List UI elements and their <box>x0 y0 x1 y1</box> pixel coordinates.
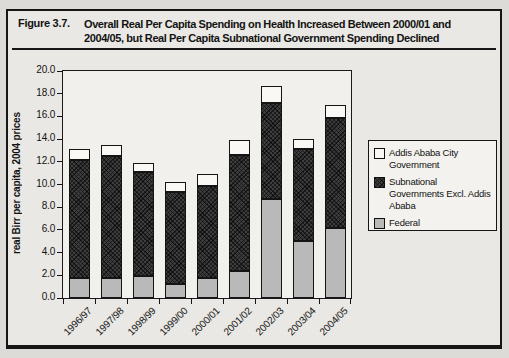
title-divider-rule <box>12 48 496 50</box>
bar-segment-plain <box>229 140 250 155</box>
y-tick-label: 18.0 <box>36 87 55 98</box>
bar-segment-plain <box>197 174 218 185</box>
y-tick-mark <box>57 116 63 117</box>
y-tick-mark <box>57 139 63 140</box>
bar-segment-dots <box>325 228 346 298</box>
y-tick-mark <box>57 207 63 208</box>
bar-segment-cross <box>229 155 250 271</box>
legend-label: Addis Ababa City Government <box>389 147 493 171</box>
y-tick-label: 16.0 <box>36 109 55 120</box>
y-tick-mark <box>57 275 63 276</box>
chart-legend: Addis Ababa City Government Subnational … <box>368 140 497 231</box>
legend-label: Federal <box>389 217 420 229</box>
bar-segment-dots <box>133 276 154 298</box>
y-tick-label: 6.0 <box>42 223 55 234</box>
legend-swatch-federal <box>374 218 385 229</box>
bar-segment-plain <box>165 182 186 192</box>
figure-page: Figure 3.7. Overall Real Per Capita Spen… <box>0 0 509 358</box>
y-tick-mark <box>57 161 63 162</box>
plot-area <box>62 70 352 299</box>
y-tick-label: 4.0 <box>42 246 55 257</box>
figure-box: Figure 3.7. Overall Real Per Capita Spen… <box>6 9 502 349</box>
y-tick-label: 10.0 <box>36 178 55 189</box>
x-tick-mark <box>350 298 351 304</box>
bar-segment-dots <box>69 278 90 298</box>
x-axis-labels: 1996/971997/981998/991999/002000/012001/… <box>62 302 350 344</box>
y-tick-mark <box>57 71 63 72</box>
bar-segment-plain <box>69 149 90 159</box>
legend-label: Subnational Governments Excl. Addis Abab… <box>389 176 493 212</box>
bar-segment-plain <box>325 105 346 117</box>
bar-segment-dots <box>229 271 250 298</box>
bar-segment-cross <box>325 118 346 228</box>
bar-segment-dots <box>293 241 314 298</box>
y-tick-label: 20.0 <box>36 64 55 75</box>
figure-number: Figure 3.7. <box>18 17 70 29</box>
bar-segment-cross <box>197 186 218 278</box>
bar-segment-cross <box>69 160 90 278</box>
bar-segment-plain <box>261 86 282 103</box>
y-tick-label: 14.0 <box>36 132 55 143</box>
figure-title-line1: Overall Real Per Capita Spending on Heal… <box>84 17 451 31</box>
bar-segment-plain <box>293 139 314 149</box>
bar-segment-dots <box>101 278 122 298</box>
y-tick-label: 8.0 <box>42 200 55 211</box>
figure-title-line2: 2004/05, but Real Per Capita Subnational… <box>84 31 451 45</box>
bar-segment-dots <box>197 278 218 298</box>
legend-swatch-subnational <box>374 177 385 188</box>
legend-item-federal: Federal <box>374 217 493 229</box>
bar-segment-plain <box>101 145 122 156</box>
bar-segment-cross <box>165 192 186 284</box>
legend-item-addis-ababa: Addis Ababa City Government <box>374 147 493 171</box>
legend-item-subnational: Subnational Governments Excl. Addis Abab… <box>374 176 493 212</box>
y-tick-mark <box>57 184 63 185</box>
bar-segment-cross <box>101 156 122 277</box>
bar-segment-cross <box>133 172 154 276</box>
bar-segment-cross <box>261 103 282 199</box>
bar-segment-cross <box>293 149 314 241</box>
y-tick-mark <box>57 93 63 94</box>
legend-swatch-addis-ababa <box>374 148 385 159</box>
bar-segment-dots <box>261 199 282 298</box>
y-axis-labels: 0.02.04.06.08.010.012.014.016.018.020.0 <box>8 70 55 297</box>
y-tick-label: 0.0 <box>42 291 55 302</box>
y-tick-mark <box>57 229 63 230</box>
bar-segment-plain <box>133 163 154 172</box>
y-tick-mark <box>57 252 63 253</box>
y-tick-label: 12.0 <box>36 155 55 166</box>
figure-title: Overall Real Per Capita Spending on Heal… <box>84 17 451 45</box>
y-tick-label: 2.0 <box>42 268 55 279</box>
bar-segment-dots <box>165 284 186 298</box>
